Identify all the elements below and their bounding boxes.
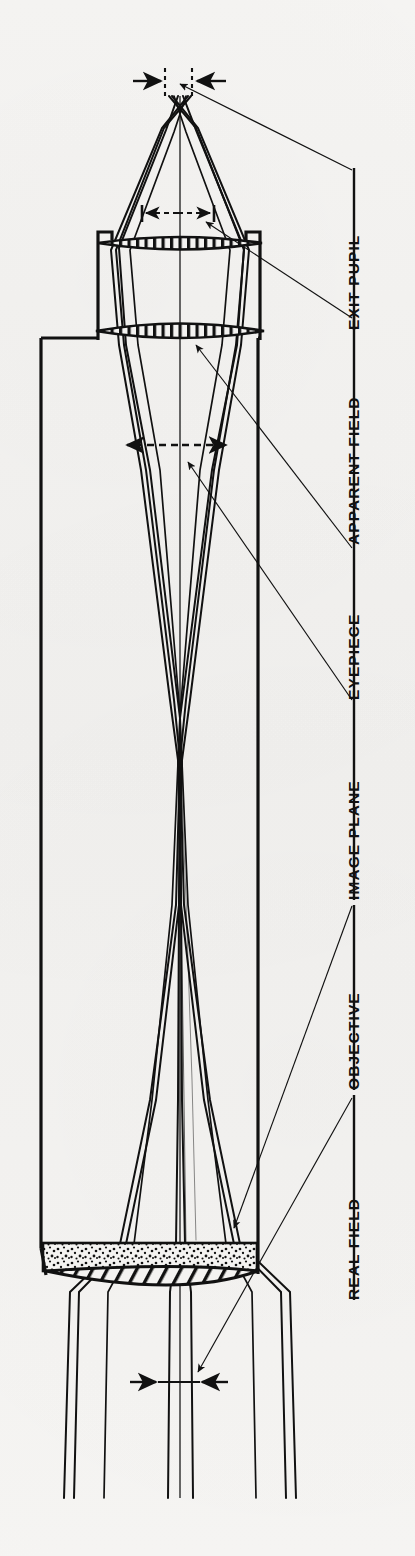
label-real-field: REAL FIELD [345,1198,363,1300]
figure-page: EXIT PUPIL APPARENT FIELD EYEPIECE IMAGE… [0,0,415,1556]
label-eyepiece: EYEPIECE [345,614,363,700]
label-image-plane: IMAGE PLANE [345,780,363,900]
label-apparent-field: APPARENT FIELD [345,396,363,545]
label-exit-pupil: EXIT PUPIL [345,235,363,330]
label-objective: OBJECTIVE [345,992,363,1090]
label-layer: EXIT PUPIL APPARENT FIELD EYEPIECE IMAGE… [0,0,415,1556]
